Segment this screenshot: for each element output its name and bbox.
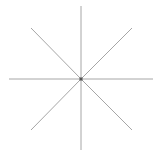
asterisk-star-icon [0, 0, 163, 152]
center-point [80, 78, 83, 81]
ray-north-east [81, 28, 132, 79]
ray-north-west [31, 28, 81, 79]
ray-south-west [31, 79, 81, 130]
ray-south-east [81, 79, 132, 130]
star-diagram [0, 0, 163, 152]
